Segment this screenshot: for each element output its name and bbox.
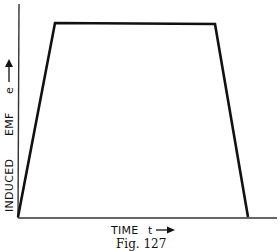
x-arrowhead-icon <box>167 227 175 234</box>
x-axis-symbol: t <box>148 224 153 237</box>
y-axis-label-induced: INDUCED <box>3 159 16 212</box>
y-axis <box>18 4 19 218</box>
y-axis-label-emf: EMF <box>3 112 16 136</box>
emf-waveform <box>18 23 248 217</box>
figure-caption: Fig. 127 <box>116 237 166 251</box>
induced-emf-figure: INDUCED EMF e TIME t Fig. 127 <box>0 0 280 251</box>
y-axis-symbol: e <box>3 87 16 94</box>
y-axis-label: INDUCED EMF e <box>3 59 16 212</box>
y-arrowhead-icon <box>5 59 13 67</box>
x-axis-label-time: TIME <box>110 224 139 237</box>
